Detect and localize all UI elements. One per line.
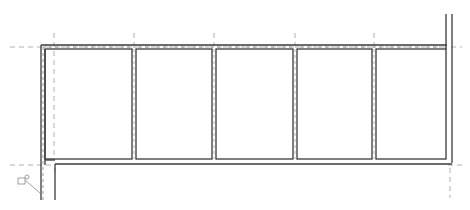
room-4[interactable] bbox=[297, 49, 372, 159]
outer-wall bbox=[41, 14, 452, 200]
floor-plan-canvas[interactable] bbox=[0, 0, 470, 210]
reference-tag-icon[interactable] bbox=[18, 175, 40, 193]
room-2[interactable] bbox=[136, 49, 212, 159]
room-1[interactable] bbox=[45, 49, 132, 159]
grid-lines bbox=[10, 33, 462, 198]
room-3[interactable] bbox=[216, 49, 293, 159]
rooms bbox=[45, 49, 446, 159]
floor-plan-drawing bbox=[0, 0, 470, 210]
room-5[interactable] bbox=[376, 49, 446, 159]
